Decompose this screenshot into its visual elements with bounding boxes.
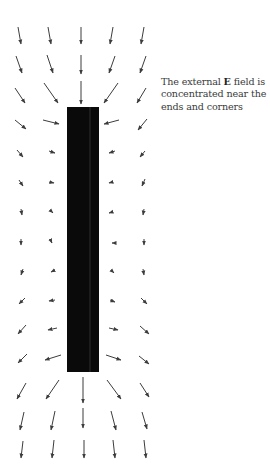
electric-field-diagram <box>0 0 270 472</box>
field-arrow <box>140 151 145 157</box>
field-arrow <box>20 412 24 430</box>
field-arrow <box>15 88 25 103</box>
field-arrow <box>15 120 26 129</box>
field-arrow <box>137 88 146 103</box>
field-arrow <box>18 325 26 334</box>
field-arrow <box>49 300 55 301</box>
field-arrow <box>139 356 149 364</box>
field-arrow <box>141 298 147 304</box>
field-arrow <box>51 211 53 213</box>
field-arrow <box>19 298 25 304</box>
field-arrow <box>104 83 118 103</box>
field-arrow <box>142 412 147 429</box>
field-arrow <box>16 56 22 73</box>
field-arrow <box>109 56 115 73</box>
field-arrow <box>49 151 55 153</box>
field-arrow <box>144 440 146 458</box>
field-arrow <box>109 182 113 183</box>
field-arrow <box>43 120 59 124</box>
field-arrow <box>140 326 149 334</box>
field-arrow <box>21 209 22 215</box>
field-arrow <box>142 179 145 186</box>
field-arrow <box>18 27 21 44</box>
field-arrow <box>47 55 53 73</box>
field-arrow <box>48 328 57 330</box>
field-arrow <box>109 212 112 213</box>
field-arrow <box>109 328 118 330</box>
field-arrow <box>107 380 121 399</box>
field-arrow <box>45 355 61 360</box>
caption-text-before: The external <box>161 76 224 87</box>
field-arrow <box>51 271 53 272</box>
field-arrow <box>44 83 58 103</box>
field-caption: The external E field is concentrated nea… <box>161 76 270 113</box>
field-arrow <box>21 441 23 458</box>
field-arrow <box>17 150 23 157</box>
field-arrow <box>51 411 55 430</box>
conductor-bar <box>67 107 99 372</box>
conductor-rectangle <box>67 107 99 372</box>
field-arrow <box>141 27 144 44</box>
caption-bold-E: E <box>224 76 231 87</box>
field-arrow <box>140 383 149 397</box>
field-arrow <box>143 269 144 275</box>
field-arrow <box>17 383 26 399</box>
field-arrow <box>110 27 113 44</box>
field-arrow <box>110 300 115 302</box>
field-arrow <box>48 27 51 44</box>
field-arrow <box>109 151 115 153</box>
field-arrow <box>18 354 27 363</box>
field-arrow <box>21 269 23 275</box>
field-arrow <box>113 440 115 458</box>
field-arrow <box>46 380 59 399</box>
field-arrow <box>143 209 144 215</box>
field-arrow <box>104 120 119 124</box>
field-arrow <box>19 180 23 186</box>
field-arrow <box>49 182 54 183</box>
field-arrow <box>140 56 146 73</box>
field-arrow <box>106 355 121 360</box>
field-arrow <box>111 411 116 430</box>
field-arrow <box>112 271 114 273</box>
field-arrow <box>138 119 147 130</box>
field-arrow <box>51 241 52 243</box>
field-arrow <box>52 440 54 458</box>
